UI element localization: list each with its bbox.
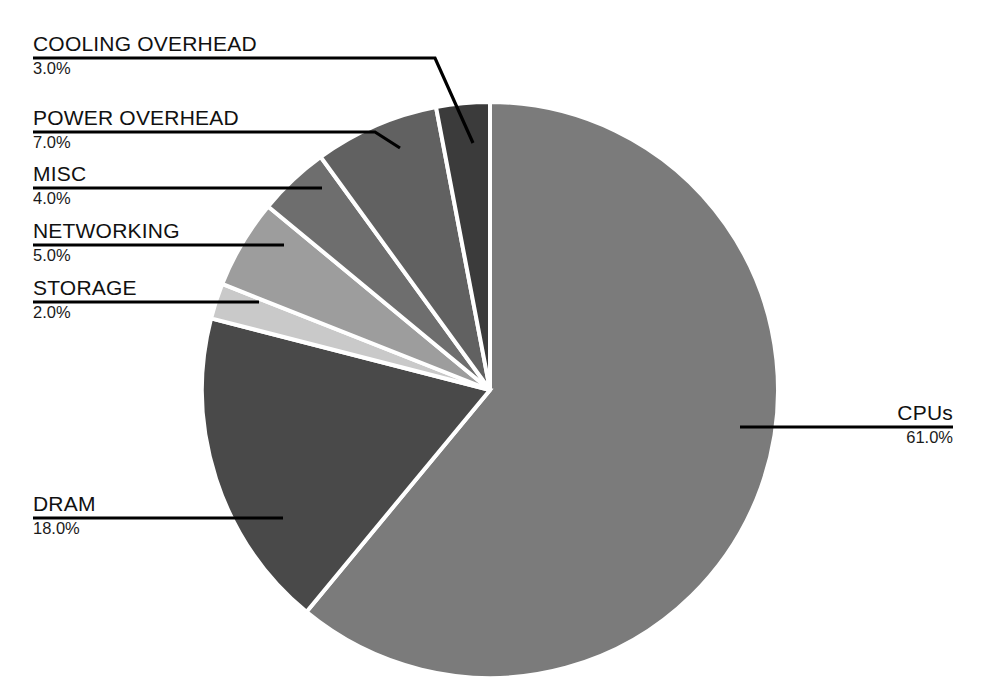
callout-category-label: MISC [33, 161, 86, 186]
callout-percent-value: 61.0% [897, 425, 953, 447]
callout-category-label: DRAM [33, 491, 96, 516]
callout-category-label: STORAGE [33, 275, 137, 300]
callout-category-label: COOLING OVERHEAD [33, 31, 257, 56]
callout-category-label: POWER OVERHEAD [33, 105, 239, 130]
callout-storage[interactable]: STORAGE 2.0% [33, 275, 137, 322]
callout-cpus[interactable]: CPUs 61.0% [897, 400, 953, 447]
callout-cooling-overhead[interactable]: COOLING OVERHEAD 3.0% [33, 31, 257, 78]
callout-percent-value: 5.0% [33, 243, 180, 265]
callout-dram[interactable]: DRAM 18.0% [33, 491, 96, 538]
callout-category-label: NETWORKING [33, 218, 180, 243]
callout-misc[interactable]: MISC 4.0% [33, 161, 86, 208]
callout-percent-value: 3.0% [33, 56, 257, 78]
callout-percent-value: 2.0% [33, 300, 137, 322]
callout-percent-value: 18.0% [33, 516, 96, 538]
callout-networking[interactable]: NETWORKING 5.0% [33, 218, 180, 265]
pie-chart-canvas [0, 0, 986, 678]
callout-percent-value: 7.0% [33, 130, 239, 152]
callout-power-overhead[interactable]: POWER OVERHEAD 7.0% [33, 105, 239, 152]
pie-chart-figure: COOLING OVERHEAD 3.0% POWER OVERHEAD 7.0… [0, 0, 986, 678]
callout-percent-value: 4.0% [33, 186, 86, 208]
callout-category-label: CPUs [897, 400, 953, 425]
